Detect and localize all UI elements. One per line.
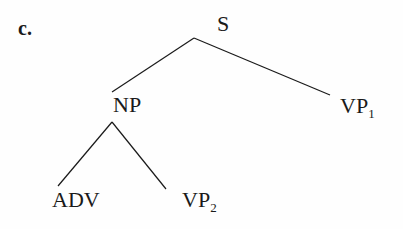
example-label: c. <box>18 18 32 38</box>
node-np-label: NP <box>113 92 141 117</box>
node-adv: ADV <box>52 189 100 211</box>
node-vp2-label: VP <box>182 187 210 212</box>
edge-np-adv <box>58 122 112 186</box>
node-vp1-subscript: 1 <box>368 106 375 121</box>
node-s-label: S <box>217 11 229 36</box>
node-vp2: VP2 <box>182 189 217 211</box>
node-vp2-subscript: 2 <box>210 200 217 215</box>
node-vp1: VP1 <box>340 95 375 117</box>
node-vp1-label: VP <box>340 93 368 118</box>
edge-s-vp1 <box>194 38 330 95</box>
node-s: S <box>217 13 229 35</box>
node-np: NP <box>113 94 141 116</box>
edge-np-vp2 <box>112 122 166 189</box>
edge-s-np <box>112 38 194 92</box>
syntax-tree-diagram: c. S NP VP1 ADV VP2 <box>0 0 403 229</box>
node-adv-label: ADV <box>52 187 100 212</box>
